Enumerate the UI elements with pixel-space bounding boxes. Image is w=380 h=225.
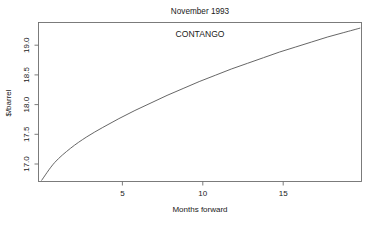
x-axis-title: Months forward [172, 205, 227, 214]
y-tick-marks [35, 45, 39, 164]
y-tick-label-19-0: 19.0 [22, 37, 31, 53]
x-tick-label-15: 15 [279, 189, 288, 198]
plot-frame [39, 23, 362, 182]
chart-title: November 1993 [171, 7, 230, 16]
forward-curve-chart: November 1993 CONTANGO 17.0 17.5 18.0 18… [0, 0, 380, 225]
y-tick-label-18-0: 18.0 [22, 96, 31, 112]
chart-figure: November 1993 CONTANGO 17.0 17.5 18.0 18… [0, 0, 380, 225]
y-axis-title: $/barrel [4, 89, 13, 116]
forward-curve-line [42, 28, 360, 180]
contango-annotation: CONTANGO [175, 29, 224, 39]
y-tick-label-17-5: 17.5 [22, 126, 31, 142]
x-tick-label-10: 10 [198, 189, 207, 198]
y-tick-label-18-5: 18.5 [22, 67, 31, 83]
y-tick-label-17-0: 17.0 [22, 156, 31, 172]
x-tick-marks [122, 182, 283, 186]
x-tick-label-5: 5 [120, 189, 125, 198]
